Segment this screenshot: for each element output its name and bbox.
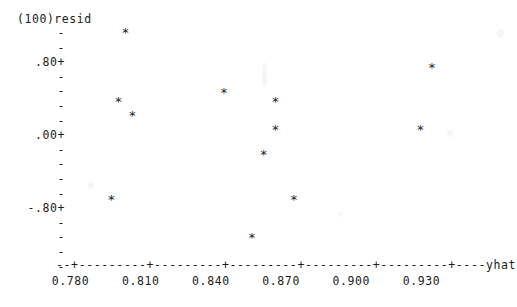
data-point: * bbox=[122, 25, 130, 38]
data-point: * bbox=[115, 95, 123, 108]
data-point: * bbox=[290, 192, 298, 205]
data-point: * bbox=[248, 230, 256, 243]
data-point: * bbox=[129, 109, 137, 122]
x-axis-label: yhat bbox=[486, 258, 516, 272]
data-point: * bbox=[271, 123, 279, 136]
residual-plot: (100)resid - - .80+ - - - - .00+ - - - -… bbox=[0, 0, 517, 307]
data-point: * bbox=[220, 85, 228, 98]
data-point: * bbox=[271, 95, 279, 108]
data-point: * bbox=[107, 192, 115, 205]
x-tick-label: 0.930 bbox=[403, 274, 441, 289]
data-point: * bbox=[416, 123, 424, 136]
x-tick-label: 0.810 bbox=[122, 274, 160, 289]
data-point: * bbox=[260, 148, 268, 161]
x-tick-label: 0.900 bbox=[332, 274, 370, 289]
x-axis-rule: --+---------+---------+---------+-------… bbox=[56, 258, 486, 272]
data-point: * bbox=[428, 60, 436, 73]
x-axis-line: --+---------+---------+---------+-------… bbox=[56, 259, 516, 272]
x-tick-label-row: 0.7800.8100.8400.8700.9000.930 bbox=[56, 274, 516, 290]
x-tick-label: 0.870 bbox=[262, 274, 300, 289]
x-tick-label: 0.840 bbox=[192, 274, 230, 289]
x-tick-label: 0.780 bbox=[52, 274, 90, 289]
